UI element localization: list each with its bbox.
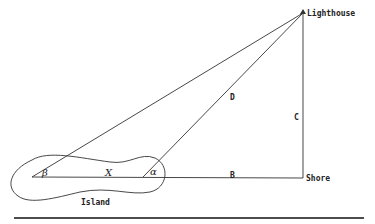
side-b-label: B xyxy=(230,171,235,180)
island-label: Island xyxy=(81,198,110,207)
angle-beta-label: β xyxy=(41,167,48,178)
angle-alpha-label: α xyxy=(150,166,157,177)
side-d-label: D xyxy=(230,93,235,102)
lighthouse-marker-icon xyxy=(300,9,306,14)
shore-label: Shore xyxy=(306,174,330,183)
baseline-x-b xyxy=(32,177,303,178)
side-x-label: X xyxy=(104,167,113,178)
lighthouse-label: Lighthouse xyxy=(307,8,355,18)
lighthouse-triangulation-diagram: Lighthouse Shore Island B C D X α β xyxy=(0,0,375,224)
side-c-label: C xyxy=(294,113,299,122)
